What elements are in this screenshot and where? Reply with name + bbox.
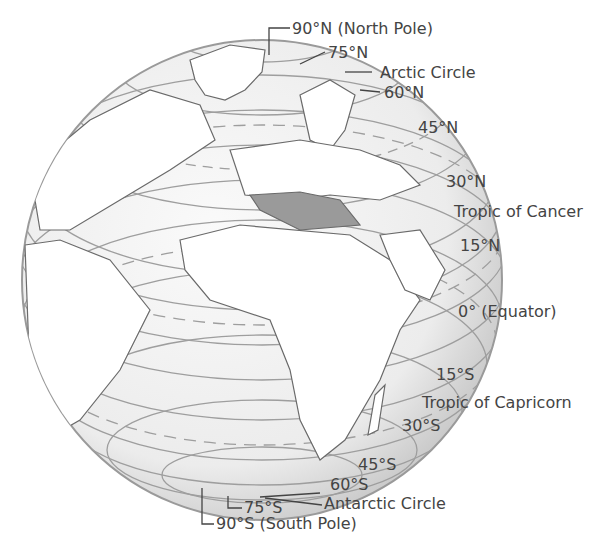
- label-60n: 60°N: [384, 85, 424, 101]
- label-30n: 30°N: [446, 174, 486, 190]
- label-north-pole: 90°N (North Pole): [292, 21, 433, 37]
- label-60s: 60°S: [330, 477, 369, 493]
- label-antarctic-circle: Antarctic Circle: [324, 496, 446, 512]
- label-15n: 15°N: [460, 238, 500, 254]
- label-south-pole: 90°S (South Pole): [216, 516, 357, 532]
- label-45s: 45°S: [358, 457, 397, 473]
- label-15s: 15°S: [436, 367, 475, 383]
- label-45n: 45°N: [418, 120, 458, 136]
- label-arctic-circle: Arctic Circle: [380, 65, 476, 81]
- globe-graphic: [0, 0, 608, 542]
- label-equator: 0° (Equator): [458, 304, 557, 320]
- label-tropic-of-cancer: Tropic of Cancer: [454, 204, 583, 220]
- label-30s: 30°S: [402, 418, 441, 434]
- globe-latitude-diagram: 90°N (North Pole) 75°N Arctic Circle 60°…: [0, 0, 608, 542]
- label-tropic-of-capricorn: Tropic of Capricorn: [422, 395, 572, 411]
- label-75n: 75°N: [328, 45, 368, 61]
